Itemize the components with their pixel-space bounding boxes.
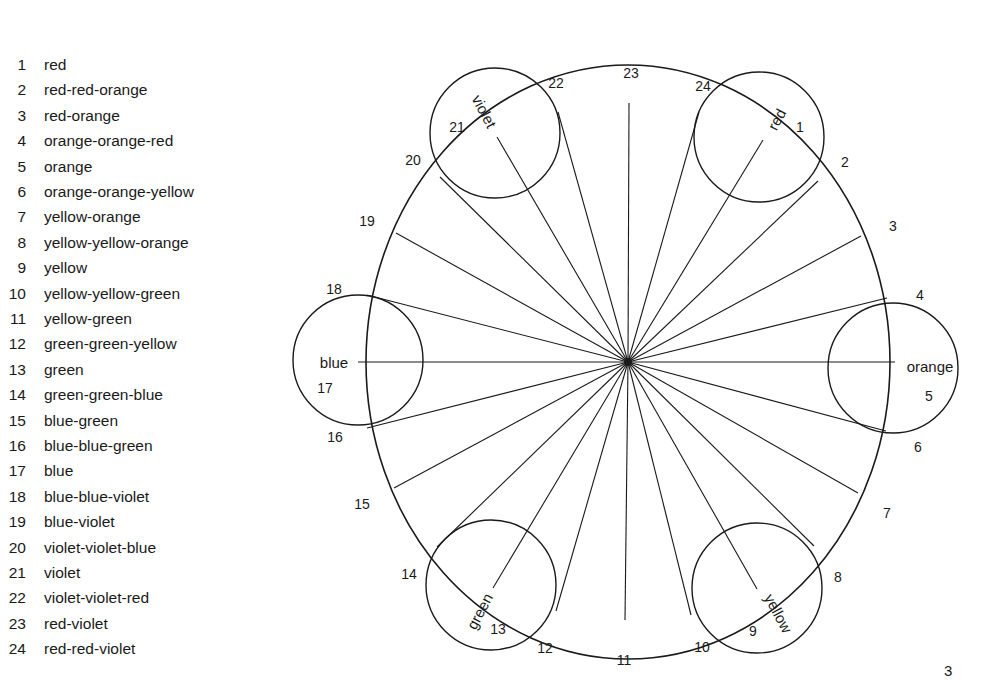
primary-color-label-blue: blue [320,354,348,371]
spoke-label-15: 15 [354,496,370,512]
spoke-label-4: 4 [916,287,924,303]
spoke-7 [628,362,858,493]
spoke-label-16: 16 [327,429,343,445]
spoke-13 [493,362,628,588]
page-number: 3 [944,662,952,679]
spoke-1 [628,140,763,362]
primary-circle-blue [293,295,423,425]
spoke-3 [628,236,861,362]
spoke-label-24: 24 [695,78,711,94]
spoke-21 [497,137,628,362]
spoke-20 [440,177,628,362]
spoke-label-23: 23 [623,65,639,81]
spoke-label-8: 8 [834,569,842,585]
spoke-16 [367,362,628,428]
spoke-22 [558,112,628,362]
spoke-label-6: 6 [914,439,922,455]
spoke-label-11: 11 [617,652,632,668]
spoke-label-13: 13 [490,621,506,637]
spoke-label-12: 12 [537,640,553,656]
spoke-label-3: 3 [889,218,897,234]
spoke-label-20: 20 [405,152,421,168]
spoke-label-21: 21 [449,119,465,135]
spoke-label-5: 5 [925,388,933,404]
primary-color-label-orange: orange [907,358,954,375]
spoke-label-19: 19 [359,213,375,229]
spoke-6 [628,362,886,431]
wheel-center-hub [624,358,632,366]
spoke-label-22: 22 [548,75,564,91]
spoke-11 [625,362,628,620]
spoke-label-9: 9 [749,623,757,639]
spoke-label-10: 10 [694,639,710,655]
spoke-2 [628,181,818,362]
spoke-label-2: 2 [841,154,849,170]
spoke-label-7: 7 [883,505,891,521]
primary-color-label-yellow: yellow [761,591,796,636]
spoke-19 [396,233,628,362]
spoke-15 [394,362,628,488]
primary-color-label-violet: violet [469,92,501,132]
spoke-8 [628,362,814,546]
spoke-14 [437,362,628,547]
spoke-9 [628,362,757,589]
spoke-label-14: 14 [401,566,417,582]
spoke-18 [367,295,628,362]
spoke-24 [628,112,699,362]
primary-circle-red [694,72,824,202]
spoke-12 [556,362,628,611]
spoke-label-17: 17 [317,380,333,396]
spoke-label-1: 1 [796,119,804,135]
spoke-10 [628,362,691,615]
spoke-23 [628,103,629,362]
color-wheel-diagram: 123456789101112131415161718192021222324 … [0,0,987,687]
spoke-4 [628,298,887,362]
spoke-label-18: 18 [326,281,342,297]
